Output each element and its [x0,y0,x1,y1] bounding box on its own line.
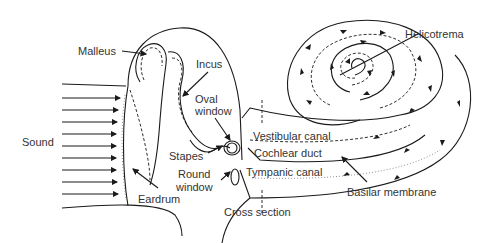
label-stapes: Stapes [169,150,204,162]
ear-diagram: Malleus Incus Oval window Sound Stapes R… [0,0,487,243]
label-incus: Incus [196,58,223,70]
label-vestibular-canal: Vestibular canal [253,130,331,142]
label-eardrum: Eardrum [138,193,180,205]
label-malleus: Malleus [78,45,116,57]
label-cross-section: Cross section [224,206,291,218]
label-helicotrema: Helicotrema [405,28,465,40]
sound-arrows [62,84,126,194]
labels: Malleus Incus Oval window Sound Stapes R… [22,28,465,218]
label-sound: Sound [22,136,54,148]
label-round-window-1: Round [178,168,210,180]
label-oval-window-2: window [194,105,232,117]
label-oval-window-1: Oval [195,93,218,105]
label-tympanic-canal: Tympanic canal [246,166,322,178]
label-basilar-membrane: Basilar membrane [347,186,436,198]
label-round-window-2: window [175,181,213,193]
label-cochlear-duct: Cochlear duct [254,147,322,159]
ear-anatomy-figure: Malleus Incus Oval window Sound Stapes R… [0,0,487,243]
